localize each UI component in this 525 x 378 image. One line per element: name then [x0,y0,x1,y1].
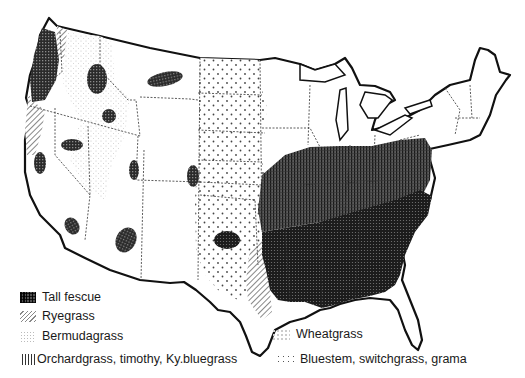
legend-label: Orchardgrass, timothy, Ky.bluegrass [37,352,237,366]
legend-wheatgrass: Wheatgrass [272,327,363,341]
lake-huron [360,92,392,118]
patch-tall-fescue-co [187,165,199,187]
patch-tall-fescue-ca [34,152,46,174]
legend-bermudagrass: Bermudagrass [20,329,123,343]
legend-orchardgrass: Orchardgrass, timothy, Ky.bluegrass [22,352,237,366]
legend-label: Bermudagrass [42,329,123,343]
legend-label: Bluestem, switchgrass, grama [300,352,467,366]
bluestem-swatch-icon [276,354,294,365]
legend-ryegrass: Ryegrass [20,309,95,323]
legend-label: Ryegrass [42,309,95,323]
patch-tall-fescue-ut [129,160,139,180]
wheatgrass-swatch-icon [272,329,290,340]
patch-tall-fescue-se-id [102,109,116,123]
legend-label: Tall fescue [42,290,101,304]
ryegrass-swatch-icon [20,311,36,322]
tall-fescue-swatch-icon [20,292,36,303]
legend-label: Wheatgrass [296,327,363,341]
bermudagrass-swatch-icon [20,331,36,342]
patch-tall-fescue-ok [214,231,240,249]
patch-tall-fescue-nv [61,139,83,151]
patch-tall-fescue-id [87,64,107,94]
legend-tall-fescue: Tall fescue [20,290,101,304]
orchardgrass-swatch-icon [22,354,36,365]
legend-bluestem: Bluestem, switchgrass, grama [276,352,467,366]
